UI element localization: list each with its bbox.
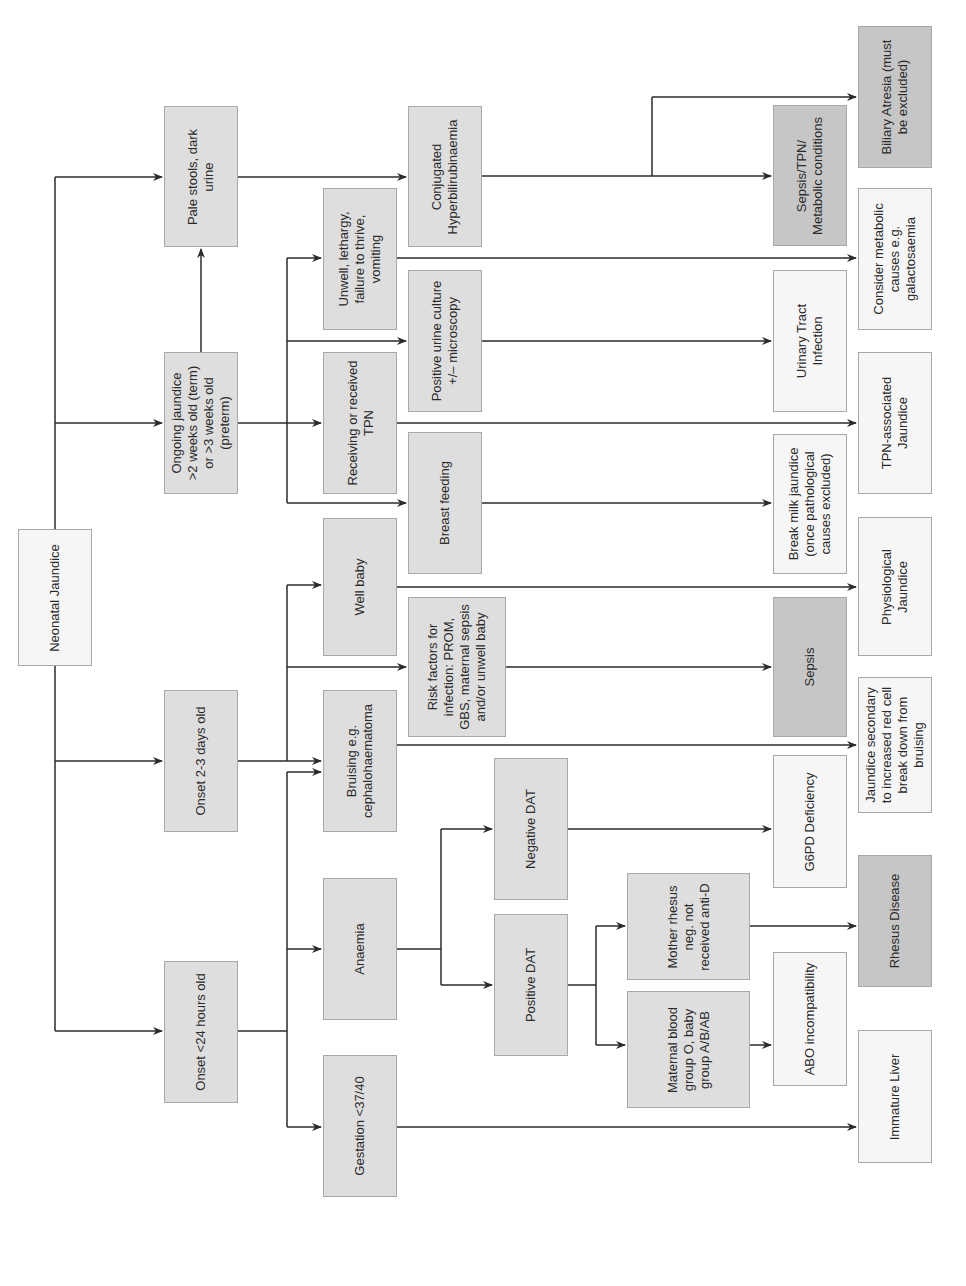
node-label: Physiological Jaundice xyxy=(879,549,911,625)
node-jaundice-bruising: Jaundice secondary to increased red cell… xyxy=(858,677,932,813)
node-break-milk: Break milk jaundice (once pathological c… xyxy=(773,434,847,574)
node-gestation: Gestation <37/40 xyxy=(323,1055,397,1197)
node-label: Anaemia xyxy=(352,923,368,974)
node-label: Receiving or received TPN xyxy=(344,360,376,485)
node-label: Positive urine culture +/– microscopy xyxy=(429,281,461,402)
node-breast-feeding: Breast feeding xyxy=(408,432,482,574)
node-label: Sepsis/TPN/ Metabolic conditions xyxy=(794,117,826,235)
node-label: Pale stools, dark urine xyxy=(185,128,217,224)
node-receiving-tpn: Receiving or received TPN xyxy=(323,352,397,494)
node-unwell: Unwell, lethargy, failure to thrive, vom… xyxy=(323,188,397,330)
node-physiological: Physiological Jaundice xyxy=(858,517,932,656)
node-label: Jaundice secondary to increased red cell… xyxy=(863,687,927,803)
node-uti: Urinary Tract Infection xyxy=(773,270,847,412)
node-tpn-associated: TPN-associated Jaundice xyxy=(858,352,932,494)
node-label: Unwell, lethargy, failure to thrive, vom… xyxy=(336,211,384,306)
node-label: Neonatal Jaundice xyxy=(47,544,63,652)
node-label: Break milk jaundice (once pathological c… xyxy=(786,448,834,561)
node-mother-rhesus: Mother rhesus neg. not received anti-D xyxy=(627,873,750,980)
node-label: Negative DAT xyxy=(523,789,539,869)
node-label: Immature Liver xyxy=(887,1053,903,1140)
node-label: Risk factors for infection: PROM, GBS, m… xyxy=(425,604,489,730)
node-consider-metabolic: Consider metabolic causes e.g. galactosa… xyxy=(858,188,932,330)
node-sepsis-tpn-metabolic: Sepsis/TPN/ Metabolic conditions xyxy=(773,105,847,246)
node-label: Conjugated Hyperbilirubinaemia xyxy=(429,119,461,234)
node-label: ABO incompatibility xyxy=(802,963,818,1076)
node-anaemia: Anaemia xyxy=(323,878,397,1020)
node-label: G6PD Deficiency xyxy=(802,772,818,871)
node-label: Maternal blood group O, baby group A/B/A… xyxy=(665,1007,713,1093)
node-positive-urine: Positive urine culture +/– microscopy xyxy=(408,270,482,412)
node-label: Bruising e.g. cephalohaematoma xyxy=(344,704,376,818)
node-maternal-blood: Maternal blood group O, baby group A/B/A… xyxy=(627,991,750,1108)
node-risk-factors: Risk factors for infection: PROM, GBS, m… xyxy=(408,597,506,737)
node-label: Well baby xyxy=(352,559,368,616)
node-label: Breast feeding xyxy=(437,461,453,545)
node-label: Rhesus Disease xyxy=(887,874,903,969)
node-label: Sepsis xyxy=(802,647,818,686)
node-bruising: Bruising e.g. cephalohaematoma xyxy=(323,690,397,832)
node-label: Biliary Atresia (must be excluded) xyxy=(879,40,911,155)
node-ongoing-jaundice: Ongoing jaundice >2 weeks old (term) or … xyxy=(164,352,238,494)
node-biliary-atresia: Biliary Atresia (must be excluded) xyxy=(858,26,932,168)
node-label: Consider metabolic causes e.g. galactosa… xyxy=(871,203,919,314)
node-immature-liver: Immature Liver xyxy=(858,1030,932,1163)
node-conjugated: Conjugated Hyperbilirubinaemia xyxy=(408,106,482,247)
node-label: Ongoing jaundice >2 weeks old (term) or … xyxy=(169,366,233,481)
node-onset-24h: Onset <24 hours old xyxy=(164,961,238,1103)
node-well-baby: Well baby xyxy=(323,518,397,656)
flowchart-canvas: Neonatal Jaundice Onset <24 hours old On… xyxy=(0,0,966,1286)
node-label: Urinary Tract Infection xyxy=(794,304,826,378)
node-label: Positive DAT xyxy=(523,948,539,1022)
node-onset-2-3-days: Onset 2-3 days old xyxy=(164,690,238,832)
node-neonatal-jaundice: Neonatal Jaundice xyxy=(18,529,92,666)
node-label: Gestation <37/40 xyxy=(352,1076,368,1175)
node-rhesus-disease: Rhesus Disease xyxy=(858,855,932,987)
node-negative-dat: Negative DAT xyxy=(494,758,568,900)
node-label: Onset 2-3 days old xyxy=(193,706,209,815)
node-label: Onset <24 hours old xyxy=(193,973,209,1090)
node-abo: ABO incompatibility xyxy=(773,952,847,1086)
node-pale-stools: Pale stools, dark urine xyxy=(164,106,238,247)
node-label: TPN-associated Jaundice xyxy=(879,377,911,469)
node-g6pd: G6PD Deficiency xyxy=(773,755,847,888)
node-sepsis: Sepsis xyxy=(773,597,847,737)
node-positive-dat: Positive DAT xyxy=(494,914,568,1056)
node-label: Mother rhesus neg. not received anti-D xyxy=(665,883,713,970)
